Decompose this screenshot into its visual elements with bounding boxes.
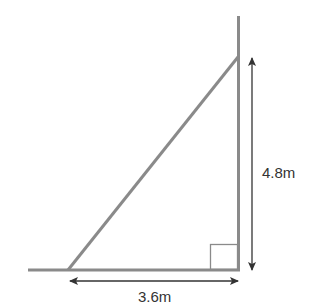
height-label: 4.8m (262, 164, 295, 181)
ladder-triangle-diagram: 4.8m 3.6m (0, 0, 320, 308)
base-label: 3.6m (138, 288, 171, 305)
ladder-line (68, 57, 238, 270)
right-angle-marker (211, 245, 238, 270)
